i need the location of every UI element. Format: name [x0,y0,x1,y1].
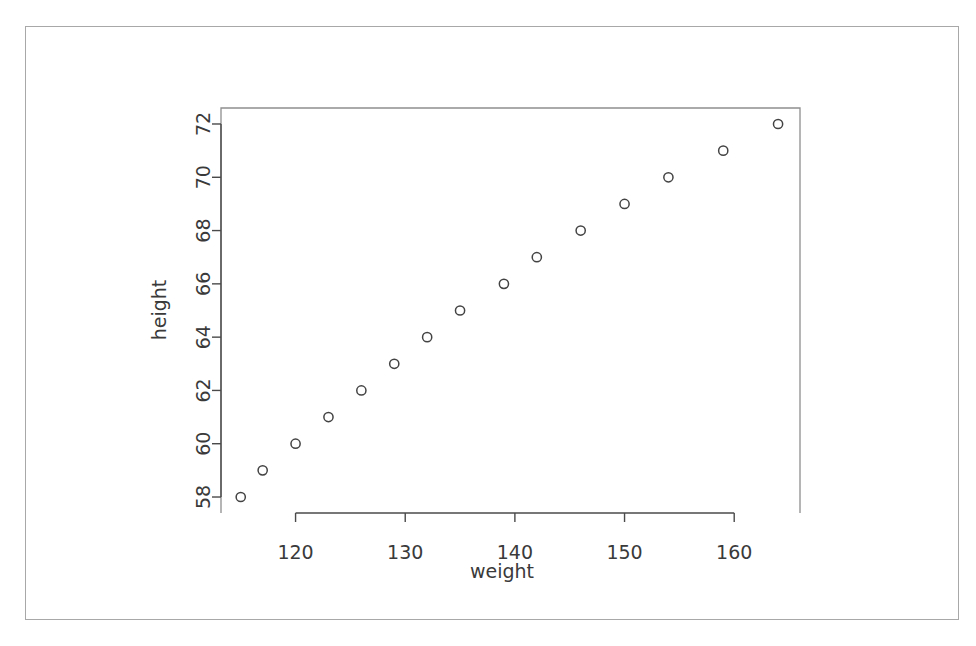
y-tick-label: 64 [192,325,214,349]
scatter-plot: 5860626466687072 120130140150160 weight … [0,0,976,646]
data-point [357,386,366,395]
y-tick-label: 66 [192,272,214,296]
y-tick-label: 70 [192,165,214,189]
data-point [423,333,432,342]
figure-container: 5860626466687072 120130140150160 weight … [0,0,976,646]
data-point [664,173,673,182]
data-point [773,119,782,128]
y-tick-label: 58 [192,485,214,509]
data-points-layer [236,119,783,501]
y-axis-title: height [148,280,170,341]
data-point [576,226,585,235]
x-tick-label: 120 [277,541,313,563]
data-point [620,199,629,208]
y-tick-label: 72 [192,112,214,136]
x-axis-title: weight [470,560,534,582]
data-point [499,279,508,288]
plot-panel-box [221,108,800,513]
data-point [719,146,728,155]
data-point [291,439,300,448]
data-point [390,359,399,368]
data-point [532,253,541,262]
data-point [455,306,464,315]
y-tick-label: 60 [192,432,214,456]
data-point [324,412,333,421]
x-tick-label: 130 [387,541,423,563]
x-tick-label: 160 [716,541,752,563]
y-tick-label: 68 [192,218,214,242]
y-tick-label: 62 [192,378,214,402]
x-tick-label: 150 [606,541,642,563]
data-point [236,492,245,501]
x-axis [296,513,735,522]
data-point [258,466,267,475]
y-tick-labels: 5860626466687072 [192,112,214,509]
